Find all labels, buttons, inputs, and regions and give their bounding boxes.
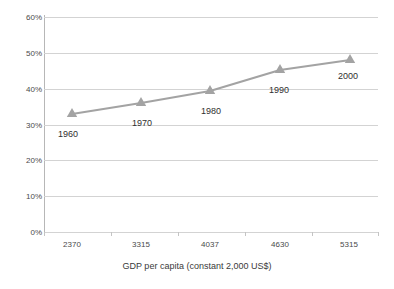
x-axis-title: GDP per capita (constant 2,000 US$): [0, 262, 394, 271]
data-series: [0, 0, 394, 289]
data-point-label-2000: 2000: [338, 72, 358, 81]
data-point-label-1980: 1980: [201, 107, 221, 116]
data-point-marker-2000: [345, 54, 355, 63]
data-point-label-1990: 1990: [269, 86, 289, 95]
data-point-label-1970: 1970: [132, 119, 152, 128]
data-point-label-1960: 1960: [58, 130, 78, 139]
line-chart: 60% 50% 40% 30% 20% 10% 0% 2370 3315 403…: [0, 0, 394, 289]
